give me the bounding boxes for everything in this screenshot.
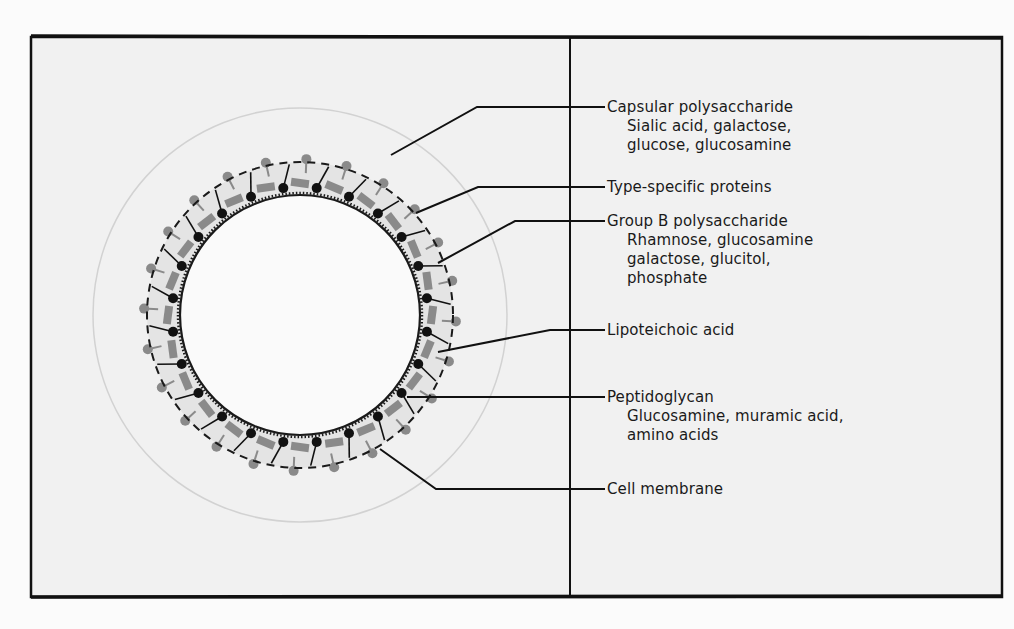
lipoteichoic-knob xyxy=(193,388,203,398)
frame-top-edge xyxy=(31,36,1002,38)
label-detail: galactose, glucitol, xyxy=(607,250,813,269)
protein-stalk xyxy=(306,159,307,173)
label-capsular-polysaccharide: Capsular polysaccharide Sialic acid, gal… xyxy=(607,98,793,155)
protein-stalk xyxy=(294,457,295,471)
lipoteichoic-knob xyxy=(168,327,178,337)
lipoteichoic-knob xyxy=(373,208,383,218)
label-detail: Rhamnose, glucosamine xyxy=(607,231,813,250)
label-detail: glucose, glucosamine xyxy=(607,136,793,155)
label-title: Peptidoglycan xyxy=(607,388,844,407)
protein-stalk xyxy=(144,309,158,310)
label-group-b-polysaccharide: Group B polysaccharide Rhamnose, glucosa… xyxy=(607,212,813,288)
label-title: Type-specific proteins xyxy=(607,178,772,197)
label-cell-membrane: Cell membrane xyxy=(607,480,723,499)
lipoteichoic-knob xyxy=(397,388,407,398)
label-detail: phosphate xyxy=(607,269,813,288)
diagram-canvas xyxy=(0,0,1014,629)
lipoteichoic-knob xyxy=(246,192,256,202)
lipoteichoic-knob xyxy=(177,359,187,369)
label-lipoteichoic-acid: Lipoteichoic acid xyxy=(607,321,734,340)
label-title: Group B polysaccharide xyxy=(607,212,813,231)
lipoteichoic-knob xyxy=(413,359,423,369)
lipoteichoic-knob xyxy=(312,183,322,193)
lipoteichoic-knob xyxy=(217,208,227,218)
lipoteichoic-knob xyxy=(422,293,432,303)
lipoteichoic-knob xyxy=(344,192,354,202)
lipoteichoic-knob xyxy=(422,327,432,337)
lipoteichoic-knob xyxy=(278,437,288,447)
lipoteichoic-knob xyxy=(312,437,322,447)
cell-interior xyxy=(181,196,419,434)
lipoteichoic-knob xyxy=(168,293,178,303)
lipoteichoic-knob xyxy=(177,261,187,271)
label-detail: Glucosamine, muramic acid, xyxy=(607,407,844,426)
label-type-specific-proteins: Type-specific proteins xyxy=(607,178,772,197)
label-title: Capsular polysaccharide xyxy=(607,98,793,117)
lipoteichoic-knob xyxy=(344,428,354,438)
label-detail: Sialic acid, galactose, xyxy=(607,117,793,136)
label-detail: amino acids xyxy=(607,426,844,445)
label-title: Cell membrane xyxy=(607,480,723,499)
lipoteichoic-knob xyxy=(278,183,288,193)
label-title: Lipoteichoic acid xyxy=(607,321,734,340)
lipoteichoic-knob xyxy=(413,261,423,271)
label-peptidoglycan: Peptidoglycan Glucosamine, muramic acid,… xyxy=(607,388,844,445)
lipoteichoic-knob xyxy=(246,428,256,438)
frame-bottom-edge xyxy=(31,596,1002,597)
